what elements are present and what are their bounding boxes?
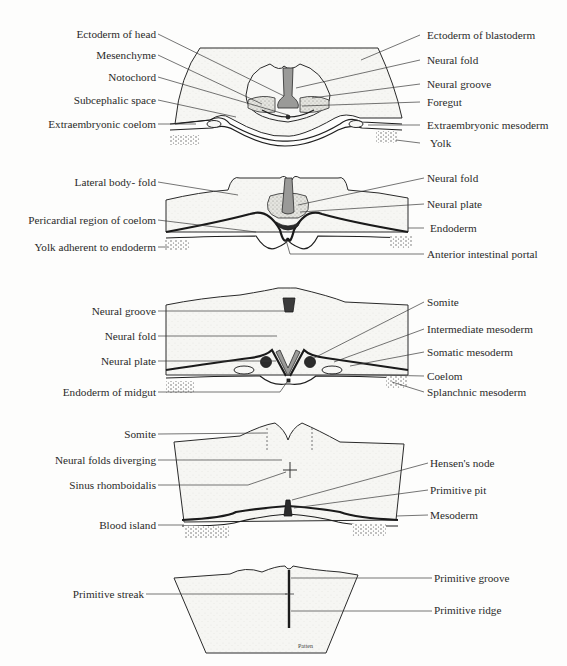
label-somite: Somite bbox=[124, 428, 156, 440]
coelom-left bbox=[234, 366, 254, 374]
yolk-right bbox=[376, 131, 398, 143]
label-anterior-intestinal-portal: Anterior intestinal portal bbox=[427, 248, 538, 260]
label-neural-plate: Neural plate bbox=[101, 355, 156, 367]
label-sinus-rhomboidalis: Sinus rhomboidalis bbox=[69, 479, 156, 491]
label-lateral-body-fold: Lateral body- fold bbox=[75, 176, 157, 188]
label-neural-fold: Neural fold bbox=[105, 330, 157, 342]
label-neural-groove: Neural groove bbox=[427, 78, 491, 90]
embryo-sections-diagram: Patten bbox=[0, 0, 567, 666]
label-endoderm-of-midgut: Endoderm of midgut bbox=[63, 386, 157, 398]
label-pericardial-region: Pericardial region of coelom bbox=[28, 214, 156, 226]
label-neural-folds-diverging: Neural folds diverging bbox=[55, 454, 156, 466]
somite-left bbox=[261, 357, 272, 368]
label-neural-groove: Neural groove bbox=[92, 305, 156, 317]
label-extraembryonic-coelom: Extraembryonic coelom bbox=[48, 118, 156, 130]
yolk-right bbox=[390, 236, 412, 248]
label-subcephalic-space: Subcephalic space bbox=[74, 94, 156, 106]
yolk-left bbox=[166, 381, 194, 393]
label-intermediate-mesoderm: Intermediate mesoderm bbox=[427, 323, 533, 335]
label-somatic-mesoderm: Somatic mesoderm bbox=[427, 346, 513, 358]
label-endoderm: Endoderm bbox=[430, 222, 477, 234]
label-yolk-adherent: Yolk adherent to endoderm bbox=[34, 241, 156, 253]
label-neural-fold: Neural fold bbox=[427, 54, 479, 66]
yolk-left bbox=[184, 526, 230, 538]
label-extraembryonic-mesoderm: Extraembryonic mesoderm bbox=[427, 119, 549, 131]
extraembryonic-coelom-right bbox=[349, 121, 363, 128]
panel-primitive-streak-section: Patten bbox=[174, 566, 358, 653]
coelom-right bbox=[322, 366, 342, 374]
label-primitive-pit: Primitive pit bbox=[430, 484, 487, 496]
label-neural-plate: Neural plate bbox=[427, 198, 482, 210]
label-ectoderm-of-blastoderm: Ectoderm of blastoderm bbox=[427, 29, 535, 41]
label-yolk: Yolk bbox=[430, 137, 452, 149]
label-foregut: Foregut bbox=[427, 96, 463, 108]
label-notochord: Notochord bbox=[108, 71, 156, 83]
label-coelom: Coelom bbox=[427, 370, 463, 382]
yolk-left bbox=[170, 135, 200, 145]
label-primitive-groove: Primitive groove bbox=[434, 572, 510, 584]
panel-head-section bbox=[170, 48, 402, 146]
yolk-left bbox=[164, 240, 190, 250]
panel-midgut-section bbox=[166, 288, 408, 393]
yolk-right bbox=[352, 524, 386, 536]
label-mesoderm: Mesoderm bbox=[430, 509, 478, 521]
signature: Patten bbox=[298, 643, 313, 649]
neural-groove bbox=[283, 298, 295, 312]
label-blood-island: Blood island bbox=[99, 519, 156, 531]
label-primitive-ridge: Primitive ridge bbox=[434, 604, 501, 616]
label-splanchnic-mesoderm: Splanchnic mesoderm bbox=[427, 386, 526, 398]
label-ectoderm-of-head: Ectoderm of head bbox=[76, 28, 156, 40]
notochord bbox=[287, 379, 290, 382]
extraembryonic-coelom-left bbox=[207, 121, 221, 128]
label-somite: Somite bbox=[427, 296, 459, 308]
somite-right bbox=[305, 357, 316, 368]
panel-hensens-node-section bbox=[174, 423, 404, 538]
notochord bbox=[286, 115, 290, 119]
blastoderm-outline bbox=[174, 566, 358, 653]
label-neural-fold: Neural fold bbox=[427, 172, 479, 184]
label-hensens-node: Hensen's node bbox=[430, 457, 494, 469]
label-primitive-streak: Primitive streak bbox=[73, 588, 145, 600]
label-mesenchyme: Mesenchyme bbox=[96, 49, 156, 61]
panel-anterior-intestinal-portal bbox=[164, 176, 412, 250]
